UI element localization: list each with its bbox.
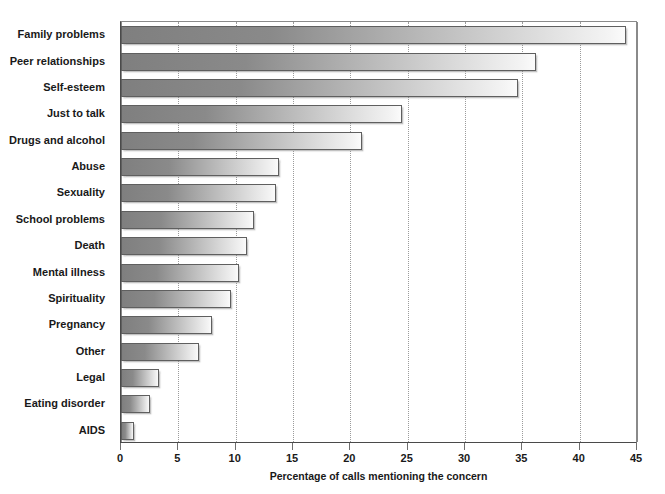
bar [121, 211, 254, 229]
horizontal-bar-chart: Family problemsPeer relationshipsSelf-es… [0, 0, 665, 494]
x-tick-label: 45 [630, 452, 642, 464]
bar [121, 237, 247, 255]
category-label: Abuse [71, 160, 105, 172]
bar [121, 343, 199, 361]
gridline-45 [637, 22, 638, 442]
category-label: Sexuality [57, 186, 105, 198]
category-label: Eating disorder [24, 397, 105, 409]
x-tick-label: 20 [343, 452, 355, 464]
category-label: School problems [16, 213, 105, 225]
bar [121, 316, 212, 334]
category-label: Drugs and alcohol [9, 134, 105, 146]
x-tick [177, 443, 178, 450]
bar [121, 184, 276, 202]
category-label: Legal [76, 371, 105, 383]
x-tick [521, 443, 522, 450]
bar [121, 53, 536, 71]
bar [121, 79, 518, 97]
x-tick [464, 443, 465, 450]
x-tick [349, 443, 350, 450]
category-axis-labels: Family problemsPeer relationshipsSelf-es… [0, 21, 113, 443]
category-label: Pregnancy [49, 318, 105, 330]
bar-series [121, 22, 636, 442]
plot-area [120, 21, 637, 443]
category-label: Other [76, 345, 105, 357]
category-label: Spirituality [48, 292, 105, 304]
bar [121, 158, 279, 176]
x-tick [636, 443, 637, 450]
bar [121, 105, 402, 123]
bar [121, 369, 159, 387]
category-label: Self-esteem [43, 81, 105, 93]
x-tick [120, 443, 121, 450]
category-label: Mental illness [33, 266, 105, 278]
x-axis-title: Percentage of calls mentioning the conce… [120, 470, 637, 482]
category-label: Death [74, 239, 105, 251]
bar [121, 26, 626, 44]
x-tick [235, 443, 236, 450]
category-label: AIDS [79, 424, 105, 436]
x-tick-label: 35 [515, 452, 527, 464]
x-tick [579, 443, 580, 450]
x-tick-label: 40 [573, 452, 585, 464]
x-tick-label: 15 [286, 452, 298, 464]
x-tick-label: 10 [229, 452, 241, 464]
x-tick-label: 25 [401, 452, 413, 464]
x-tick [407, 443, 408, 450]
x-tick-label: 5 [174, 452, 180, 464]
bar [121, 132, 362, 150]
x-tick [292, 443, 293, 450]
bar [121, 290, 231, 308]
category-label: Family problems [18, 28, 105, 40]
bar [121, 395, 150, 413]
x-tick-label: 30 [458, 452, 470, 464]
x-tick-label: 0 [117, 452, 123, 464]
category-label: Peer relationships [10, 55, 105, 67]
category-label: Just to talk [47, 107, 105, 119]
bar [121, 264, 239, 282]
bar [121, 422, 134, 440]
